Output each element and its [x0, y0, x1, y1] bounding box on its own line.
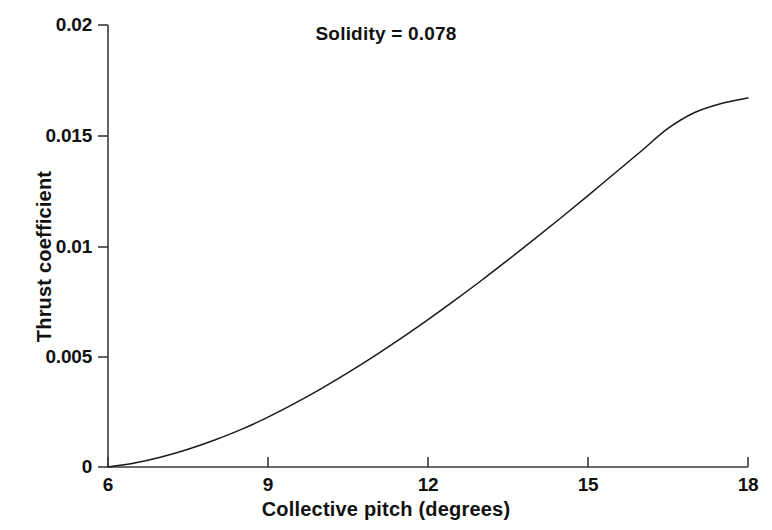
- data-series-line: [108, 98, 748, 467]
- y-axis-ticks: [98, 25, 108, 467]
- plot-canvas: [0, 0, 772, 530]
- x-axis-ticks: [108, 457, 748, 467]
- axes-group: [98, 25, 748, 467]
- chart-figure: Solidity = 0.078 Thrust coefficient Coll…: [0, 0, 772, 530]
